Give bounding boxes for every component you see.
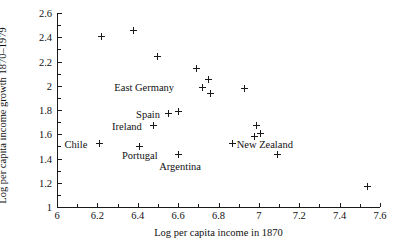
x-tick-major [138,203,139,207]
y-tick-major [58,37,62,38]
data-point-marker [229,140,236,147]
x-tick-minor [77,204,78,207]
x-tick-minor [198,204,199,207]
y-tick-minor [58,49,61,50]
x-tick-label: 7.6 [373,210,386,221]
y-tick-label: 2.2 [39,56,52,67]
x-tick-minor [279,204,280,207]
y-tick-major [58,183,62,184]
x-tick-major [259,203,260,207]
y-tick-label: 1.2 [39,177,52,188]
point-annotation-label: Portugal [122,149,158,160]
point-annotation-label: Spain [136,108,160,119]
data-point-marker [130,27,137,34]
y-tick-minor [58,122,61,123]
x-tick-major [380,203,381,207]
data-point-marker [150,122,157,129]
point-annotation-label: New Zealand [237,138,293,149]
x-tick-label: 6.8 [212,210,225,221]
y-tick-minor [58,195,61,196]
y-tick-minor [58,171,61,172]
y-tick-major [58,62,62,63]
point-annotation-label: Argentina [159,160,201,171]
y-tick-minor [58,98,61,99]
y-tick-label: 1.4 [39,153,52,164]
data-point-marker [154,53,161,60]
x-tick-minor [319,204,320,207]
x-tick-label: 6 [54,210,59,221]
point-annotation-label: Chile [65,138,88,149]
y-tick-label: 2.6 [39,8,52,19]
x-tick-major [219,203,220,207]
data-point-marker [274,151,281,158]
x-axis-line [57,207,380,208]
data-point-marker [207,90,214,97]
y-tick-major [58,159,62,160]
y-tick-major [58,110,62,111]
y-tick-label: 1.8 [39,105,52,116]
data-point-marker [241,85,248,92]
x-tick-label: 6.6 [172,210,185,221]
point-annotation-label: Ireland [112,120,142,131]
data-point-marker [205,76,212,83]
data-point-marker [193,65,200,72]
data-point-marker [98,33,105,40]
data-point-marker [257,130,264,137]
x-tick-major [340,203,341,207]
y-tick-major [58,134,62,135]
x-tick-label: 7 [256,210,261,221]
x-tick-minor [239,204,240,207]
x-tick-label: 6.2 [91,210,104,221]
x-tick-label: 6.4 [131,210,144,221]
y-tick-major [58,13,62,14]
y-tick-label: 1 [47,202,52,213]
y-tick-major [58,207,62,208]
scatter-plot-figure: 66.26.46.66.877.27.47.6 11.21.41.61.822.… [0,0,393,251]
data-point-marker [165,110,172,117]
y-tick-minor [58,74,61,75]
x-tick-label: 7.4 [333,210,346,221]
point-annotation-label: East Germany [114,82,174,93]
y-tick-label: 2.4 [39,32,52,43]
y-tick-minor [58,146,61,147]
x-tick-minor [360,204,361,207]
x-axis-title: Log per capita income in 1870 [57,227,380,238]
data-point-marker [199,84,206,91]
x-tick-major [178,203,179,207]
data-point-marker [364,183,371,190]
data-point-marker [175,151,182,158]
y-tick-minor [58,25,61,26]
y-tick-label: 1.6 [39,129,52,140]
data-point-marker [175,108,182,115]
x-tick-minor [118,204,119,207]
data-point-marker [96,140,103,147]
y-tick-label: 2 [47,80,52,91]
y-axis-title: Log per capita income growth 1870–1979 [0,27,8,203]
x-tick-minor [158,204,159,207]
x-tick-major [299,203,300,207]
x-tick-major [97,203,98,207]
data-point-marker [253,122,260,129]
y-tick-major [58,86,62,87]
x-tick-label: 7.2 [293,210,306,221]
